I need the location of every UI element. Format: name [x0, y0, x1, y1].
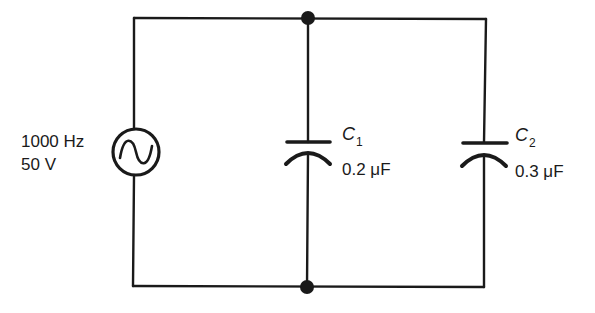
capacitor-c1-subscript: 1	[356, 135, 363, 149]
ac-source-icon	[113, 129, 159, 175]
capacitor-c2-value: 0.3 μF	[515, 162, 564, 182]
source-voltage-label: 50 V	[21, 155, 56, 175]
capacitor-c1-name: C1	[342, 124, 363, 146]
right-wire-upper	[484, 19, 486, 142]
capacitor-c2-letter: C	[515, 125, 528, 145]
left-wire-lower	[133, 176, 134, 286]
circuit-wiring	[0, 0, 595, 313]
capacitor-c1-letter: C	[342, 124, 355, 144]
circuit-diagram: 1000 Hz 50 V C1 0.2 μF C2 0.3 μF	[0, 0, 595, 313]
capacitor-c2-subscript: 2	[529, 136, 536, 150]
middle-wire-lower	[307, 154, 308, 287]
source-frequency-label: 1000 Hz	[21, 132, 84, 152]
top-junction-dot	[301, 11, 315, 25]
bottom-junction-dot	[300, 280, 314, 294]
capacitor-c2-name: C2	[515, 125, 536, 147]
capacitor-c1-value: 0.2 μF	[342, 160, 391, 180]
